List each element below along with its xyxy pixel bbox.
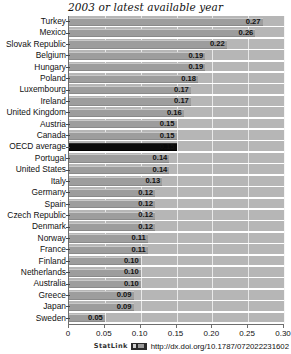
y-axis-tick [66, 78, 70, 79]
x-axis-tick-label: 0 [66, 329, 70, 338]
bar-row: 0.13 [69, 176, 284, 187]
bar [69, 29, 255, 37]
y-axis-tick [66, 192, 70, 193]
x-axis-tick [247, 324, 248, 328]
bar-row: 0.12 [69, 221, 284, 232]
bar-row: 0.10 [69, 267, 284, 278]
category-label-finland: Finland [2, 256, 68, 267]
category-label-netherlands: Netherlands [2, 267, 68, 278]
category-label-oecd-average: OECD average [2, 141, 68, 152]
y-axis-tick [66, 170, 70, 171]
bar-row: 0.27 [69, 16, 284, 27]
y-axis-tick [66, 158, 70, 159]
bar-value-label: 0.10 [122, 280, 139, 288]
x-axis-tick [68, 324, 69, 328]
bar-value-label: 0.09 [115, 291, 132, 299]
category-label-luxembourg: Luxembourg [2, 84, 68, 95]
category-label-hungary: Hungary [2, 62, 68, 73]
bar-value-label: 0.12 [136, 211, 153, 219]
bar-row: 0.19 [69, 62, 284, 73]
x-axis-tick-label: 0.30 [275, 329, 291, 338]
bar-value-label: 0.10 [122, 268, 139, 276]
statlink-url[interactable]: http://dx.doi.org/10.1787/072022231602 [151, 342, 289, 351]
bar-value-label: 0.11 [129, 246, 146, 254]
category-label-ireland: Ireland [2, 96, 68, 107]
bar-value-label: 0.19 [186, 52, 203, 60]
bar-value-label: 0.12 [136, 223, 153, 231]
x-axis-tick [140, 324, 141, 328]
bar-value-label: 0.05 [86, 314, 103, 322]
bar-value-label: 0.12 [136, 189, 153, 197]
bar-value-label: 0.15 [158, 143, 175, 151]
bar-row: 0.14 [69, 164, 284, 175]
bar [69, 63, 205, 71]
category-label-canada: Canada [2, 130, 68, 141]
y-axis-tick [66, 261, 70, 262]
bar-row: 0.11 [69, 244, 284, 255]
bar-row: 0.10 [69, 278, 284, 289]
y-axis-tick [66, 306, 70, 307]
x-axis-tick [211, 324, 212, 328]
category-label-germany: Germany [2, 187, 68, 198]
bar-row: 0.15 [69, 119, 284, 130]
y-axis-tick [66, 238, 70, 239]
bar-row: 0.12 [69, 199, 284, 210]
y-axis-tick [66, 272, 70, 273]
category-label-turkey: Turkey [2, 16, 68, 27]
category-label-japan: Japan [2, 301, 68, 312]
x-axis-tick-label: 0.20 [204, 329, 220, 338]
y-axis-tick [66, 33, 70, 34]
bar-row: 0.11 [69, 233, 284, 244]
bar-row: 0.12 [69, 210, 284, 221]
bar-value-label: 0.19 [186, 63, 203, 71]
y-axis-tick [66, 55, 70, 56]
x-axis-tick-label: 0.25 [239, 329, 255, 338]
bar-value-label: 0.17 [172, 97, 189, 105]
bar-value-label: 0.13 [143, 177, 160, 185]
bar-row: 0.22 [69, 39, 284, 50]
category-label-greece: Greece [2, 290, 68, 301]
y-axis-tick [66, 295, 70, 296]
y-axis-tick [66, 204, 70, 205]
bar-row: 0.05 [69, 313, 284, 324]
bar-row: 0.09 [69, 290, 284, 301]
category-label-slovak-republic: Slovak Republic [2, 39, 68, 50]
bar-value-label: 0.14 [150, 166, 167, 174]
bar-value-label: 0.12 [136, 200, 153, 208]
bar-value-label: 0.15 [158, 132, 175, 140]
y-axis-tick [66, 284, 70, 285]
y-axis-tick [66, 44, 70, 45]
bar-row: 0.18 [69, 73, 284, 84]
x-axis-tick [104, 324, 105, 328]
bar-row: 0.16 [69, 107, 284, 118]
bar-value-label: 0.11 [129, 234, 146, 242]
gridline [284, 16, 285, 324]
chart-title: 2003 or latest available year [0, 1, 291, 13]
bar-value-label: 0.22 [208, 40, 225, 48]
x-axis-tick-label: 0.10 [132, 329, 148, 338]
y-axis-tick [66, 135, 70, 136]
bar-row: 0.15 [69, 141, 284, 152]
x-axis-tick [283, 324, 284, 328]
bar-row: 0.17 [69, 84, 284, 95]
category-axis-labels: TurkeyMexicoSlovak RepublicBelgiumHungar… [0, 16, 68, 324]
category-label-poland: Poland [2, 73, 68, 84]
y-axis-tick [66, 181, 70, 182]
bar-value-label: 0.15 [158, 120, 175, 128]
category-label-denmark: Denmark [2, 221, 68, 232]
y-axis-tick [66, 112, 70, 113]
y-axis-tick [66, 124, 70, 125]
category-label-australia: Australia [2, 278, 68, 289]
y-axis-tick [66, 227, 70, 228]
bar-row: 0.15 [69, 130, 284, 141]
y-axis-tick [66, 90, 70, 91]
bar-value-label: 0.27 [244, 18, 261, 26]
bar-value-label: 0.18 [179, 75, 196, 83]
y-axis-tick [66, 101, 70, 102]
statlink-footer: StatLink http://dx.doi.org/10.1787/07202… [0, 340, 291, 352]
bar-row: 0.17 [69, 96, 284, 107]
bar [69, 18, 263, 26]
category-label-belgium: Belgium [2, 50, 68, 61]
x-axis-tick [176, 324, 177, 328]
y-axis-tick [66, 21, 70, 22]
